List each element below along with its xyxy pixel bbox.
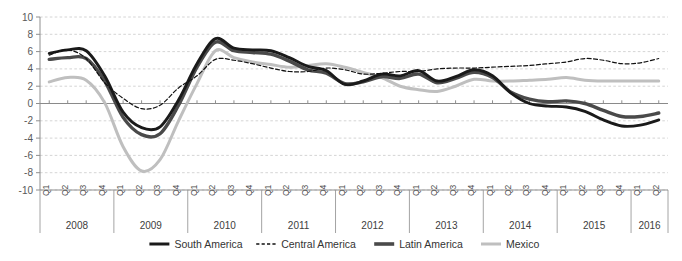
y-tick-label: -8 (24, 167, 33, 178)
x-quarter-label: Q1 (558, 184, 568, 196)
y-tick-label: -6 (24, 150, 33, 161)
x-quarter-label: Q4 (244, 184, 254, 196)
legend-label-mexico: Mexico (506, 238, 539, 250)
x-quarter-label: Q3 (521, 184, 531, 196)
x-quarter-label: Q3 (448, 184, 458, 196)
x-quarter-label: Q4 (171, 184, 181, 196)
x-year-label: 2016 (638, 220, 661, 231)
x-quarter-label: Q2 (281, 184, 291, 196)
x-year-label: 2015 (583, 220, 606, 231)
x-quarter-label: Q1 (411, 184, 421, 196)
x-quarter-label: Q4 (540, 184, 550, 196)
y-tick-label: 0 (27, 98, 33, 109)
legend-label-central-america: Central America (281, 238, 356, 250)
x-quarter-label: Q2 (651, 184, 661, 196)
y-tick-label: 6 (27, 46, 33, 57)
x-quarter-label: Q4 (392, 184, 402, 196)
chart-canvas: 1086420-2-4-6-8-10Q1Q2Q3Q42008Q1Q2Q3Q420… (0, 0, 682, 261)
x-quarter-label: Q2 (577, 184, 587, 196)
x-quarter-label: Q4 (614, 184, 624, 196)
x-year-label: 2009 (140, 220, 163, 231)
x-quarter-label: Q1 (632, 184, 642, 196)
x-year-label: 2014 (509, 220, 532, 231)
x-year-label: 2010 (214, 220, 237, 231)
x-quarter-label: Q4 (318, 184, 328, 196)
x-year-label: 2008 (66, 220, 89, 231)
line-chart: 1086420-2-4-6-8-10Q1Q2Q3Q42008Q1Q2Q3Q420… (0, 0, 682, 261)
x-quarter-label: Q3 (595, 184, 605, 196)
x-year-label: 2012 (361, 220, 384, 231)
x-quarter-label: Q1 (337, 184, 347, 196)
legend-label-south-america: South America (174, 238, 242, 250)
x-quarter-label: Q1 (485, 184, 495, 196)
x-quarter-label: Q2 (429, 184, 439, 196)
y-tick-label: 4 (27, 63, 33, 74)
y-tick-label: 2 (27, 81, 33, 92)
y-tick-label: 10 (22, 12, 34, 23)
series-line-mexico (49, 50, 659, 172)
x-quarter-label: Q3 (300, 184, 310, 196)
x-quarter-label: Q2 (207, 184, 217, 196)
x-quarter-label: Q1 (115, 184, 125, 196)
x-quarter-label: Q1 (41, 184, 51, 196)
x-quarter-label: Q4 (97, 184, 107, 196)
y-tick-label: -10 (19, 185, 34, 196)
x-quarter-label: Q3 (374, 184, 384, 196)
x-quarter-label: Q1 (263, 184, 273, 196)
y-tick-label: -2 (24, 115, 33, 126)
x-quarter-label: Q1 (189, 184, 199, 196)
x-quarter-label: Q2 (60, 184, 70, 196)
legend-label-latin-america: Latin America (399, 238, 463, 250)
series-line-latin-america (49, 42, 659, 137)
x-quarter-label: Q2 (134, 184, 144, 196)
y-tick-label: -4 (24, 133, 33, 144)
x-year-label: 2013 (435, 220, 458, 231)
x-quarter-label: Q3 (78, 184, 88, 196)
x-quarter-label: Q2 (355, 184, 365, 196)
x-quarter-label: Q4 (466, 184, 476, 196)
y-tick-label: 8 (27, 29, 33, 40)
x-year-label: 2011 (288, 220, 310, 231)
x-quarter-label: Q3 (152, 184, 162, 196)
x-quarter-label: Q2 (503, 184, 513, 196)
x-quarter-label: Q3 (226, 184, 236, 196)
